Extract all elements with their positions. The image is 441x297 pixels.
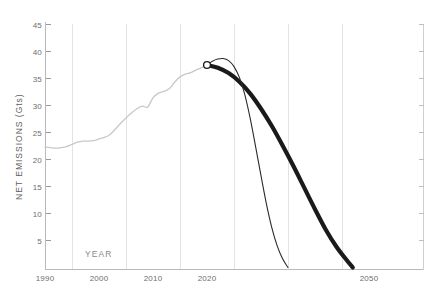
net-emissions-line-chart: 45 40 35 30 25 20 15 10 5 NET EMISSIONS …	[0, 0, 441, 297]
gridlines-group	[72, 24, 342, 270]
series-group	[45, 58, 353, 267]
x-tick-label-2010: 2010	[144, 274, 163, 283]
y-tick-label-35: 35	[33, 75, 43, 84]
x-tick-label-2020: 2020	[198, 274, 217, 283]
x-axis-group: 1990 2000 2010 2020 2050 YEAR	[36, 249, 424, 283]
y-axis-group: 45 40 35 30 25 20 15 10 5 NET EMISSIONS …	[14, 21, 51, 271]
present-day-marker-icon	[204, 62, 211, 69]
y-tick-label-10: 10	[33, 210, 43, 219]
y-axis-title: NET EMISSIONS (Gts)	[14, 93, 24, 200]
right-axis-group	[419, 24, 424, 270]
series-gradual-decline-pathway	[207, 65, 353, 268]
x-tick-label-1990: 1990	[36, 274, 55, 283]
y-tick-label-20: 20	[33, 156, 43, 165]
y-tick-label-45: 45	[33, 21, 43, 30]
y-tick-label-25: 25	[33, 129, 43, 138]
y-tick-label-40: 40	[33, 48, 43, 57]
y-tick-label-30: 30	[33, 102, 43, 111]
y-tick-label-5: 5	[37, 237, 42, 246]
x-tick-label-2000: 2000	[90, 274, 109, 283]
chart-container: 45 40 35 30 25 20 15 10 5 NET EMISSIONS …	[0, 0, 441, 297]
x-axis-title: YEAR	[85, 249, 113, 259]
y-tick-label-15: 15	[33, 183, 43, 192]
x-tick-label-2050: 2050	[360, 274, 379, 283]
